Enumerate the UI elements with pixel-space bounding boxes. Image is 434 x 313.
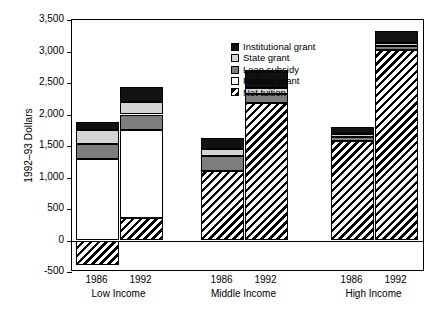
y-axis-tick-mark — [67, 241, 72, 242]
y-axis-tick-mark — [67, 83, 72, 84]
x-axis-year-label: 1986 — [74, 274, 120, 285]
y-axis-tick-mark — [67, 272, 72, 273]
bar-segment — [331, 137, 374, 141]
y-axis-tick-mark — [67, 52, 72, 53]
x-axis-year-label: 1992 — [373, 274, 419, 285]
bar-segment — [76, 144, 119, 159]
y-axis-tick-label: 3,000 — [28, 45, 64, 56]
bar-segment — [76, 130, 119, 144]
stacked-bar-chart: 1992–93 Dollars 3,5003,0002,5002,0001,50… — [0, 0, 434, 313]
bar-segment — [120, 87, 163, 102]
bar-stack — [120, 20, 163, 272]
legend-item-label: Federal grant — [243, 76, 300, 86]
legend-item-label: Net tuition — [243, 88, 286, 98]
legend-item-label: Institutional grant — [243, 42, 315, 52]
legend-swatch-icon — [231, 88, 239, 96]
legend-item: State grant — [231, 53, 315, 63]
bar-segment — [331, 134, 374, 137]
legend-item-label: Loan subsidy — [243, 65, 299, 75]
bar-segment — [245, 103, 288, 241]
bar-segment — [120, 115, 163, 131]
y-axis-tick-mark — [67, 209, 72, 210]
y-axis-tick-label: 2,000 — [28, 108, 64, 119]
bar-stack — [76, 20, 119, 272]
legend-item: Loan subsidy — [231, 65, 315, 75]
x-axis-year-label: 1992 — [243, 274, 289, 285]
legend-swatch-icon — [231, 54, 239, 62]
bar-stack — [331, 20, 374, 272]
bar-segment — [201, 171, 244, 241]
y-axis-tick-label: 2,500 — [28, 76, 64, 87]
bar-segment — [76, 159, 119, 241]
bar-segment — [331, 141, 374, 240]
x-axis-year-label: 1986 — [199, 274, 245, 285]
y-axis-tick-label: 1,000 — [28, 171, 64, 182]
y-axis-tick-mark — [67, 178, 72, 179]
y-axis-tick-label: 1,500 — [28, 139, 64, 150]
y-axis-tick-mark — [67, 20, 72, 21]
legend-item-label: State grant — [243, 53, 289, 63]
bar-segment — [201, 149, 244, 156]
bar-segment — [120, 102, 163, 115]
plot-area: Institutional grantState grantLoan subsi… — [71, 19, 424, 271]
bar-segment — [76, 241, 119, 266]
bar-segment — [120, 130, 163, 218]
legend-swatch-icon — [231, 66, 239, 74]
bar-segment — [375, 43, 418, 46]
x-axis-group-label: Middle Income — [179, 288, 309, 299]
legend-swatch-icon — [231, 43, 239, 51]
y-axis-tick-label: 3,500 — [28, 13, 64, 24]
bar-segment — [201, 138, 244, 149]
y-axis-tick-label: 500 — [28, 202, 64, 213]
x-axis-group-label: High Income — [309, 288, 434, 299]
bar-stack — [375, 20, 418, 272]
bar-segment — [201, 156, 244, 171]
x-axis-year-label: 1992 — [118, 274, 164, 285]
legend-item: Institutional grant — [231, 42, 315, 52]
chart-legend: Institutional grantState grantLoan subsi… — [231, 42, 315, 99]
legend-swatch-icon — [231, 77, 239, 85]
y-axis-tick-label: -500 — [28, 265, 64, 276]
y-axis-tick-mark — [67, 146, 72, 147]
legend-item: Net tuition — [231, 88, 315, 98]
bar-segment — [375, 50, 418, 241]
bar-segment — [120, 218, 163, 241]
bar-segment — [375, 31, 418, 43]
x-axis-year-label: 1986 — [329, 274, 375, 285]
bar-segment — [76, 122, 119, 130]
y-axis-tick-mark — [67, 115, 72, 116]
x-axis-group-label: Low Income — [54, 288, 184, 299]
bar-segment — [331, 127, 374, 134]
y-axis-tick-label: 0 — [28, 234, 64, 245]
legend-item: Federal grant — [231, 76, 315, 86]
bar-segment — [375, 46, 418, 50]
